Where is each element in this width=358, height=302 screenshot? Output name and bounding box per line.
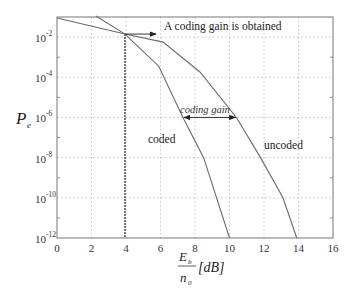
y-tick-label: 10-10 (35, 190, 56, 205)
y-tick-label: 10-4 (35, 69, 52, 84)
x-axis-label-unit: [dB] (198, 260, 224, 275)
label-coded: coded (148, 133, 176, 145)
y-tick-label: 10-8 (35, 150, 52, 165)
y-tick-label: 10-6 (35, 109, 52, 124)
x-axis-label-denominator: n (180, 270, 187, 285)
series-uncoded (57, 18, 297, 238)
x-axis-label-numerator: E (178, 249, 187, 264)
y-axis-ticks: 10-210-410-610-810-1010-12 (35, 29, 56, 245)
series-group (57, 16, 297, 238)
x-tick-label: 16 (328, 242, 340, 254)
x-tick-label: 2 (89, 242, 95, 254)
x-tick-label: 14 (293, 242, 305, 254)
y-axis-label: P e (15, 109, 31, 130)
annotation-gain-obtained: A coding gain is obtained (164, 20, 282, 33)
grid-lines (57, 17, 333, 238)
x-axis-label-numerator-sub: b (188, 258, 192, 266)
y-axis-label-main: P (15, 109, 26, 128)
label-uncoded: uncoded (264, 139, 303, 151)
series-coded (96, 16, 230, 238)
y-tick-label: 10-2 (35, 29, 52, 44)
x-tick-label: 4 (123, 242, 129, 254)
x-tick-label: 6 (158, 242, 164, 254)
x-tick-label: 0 (54, 242, 60, 254)
y-tick-label: 10-12 (35, 230, 56, 245)
annotation-coding-gain: coding gain (180, 104, 230, 115)
x-axis-ticks: 0246810121416 (54, 242, 339, 254)
y-axis-label-sub: e (27, 120, 31, 130)
x-tick-label: 10 (224, 242, 236, 254)
x-axis-label-denominator-sub: 0 (188, 279, 192, 287)
x-tick-label: 8 (192, 242, 198, 254)
x-axis-label: E b n 0 [dB] (178, 249, 224, 287)
x-tick-label: 12 (259, 242, 270, 254)
ber-chart: 10-210-410-610-810-1010-12 0246810121416… (0, 0, 358, 302)
